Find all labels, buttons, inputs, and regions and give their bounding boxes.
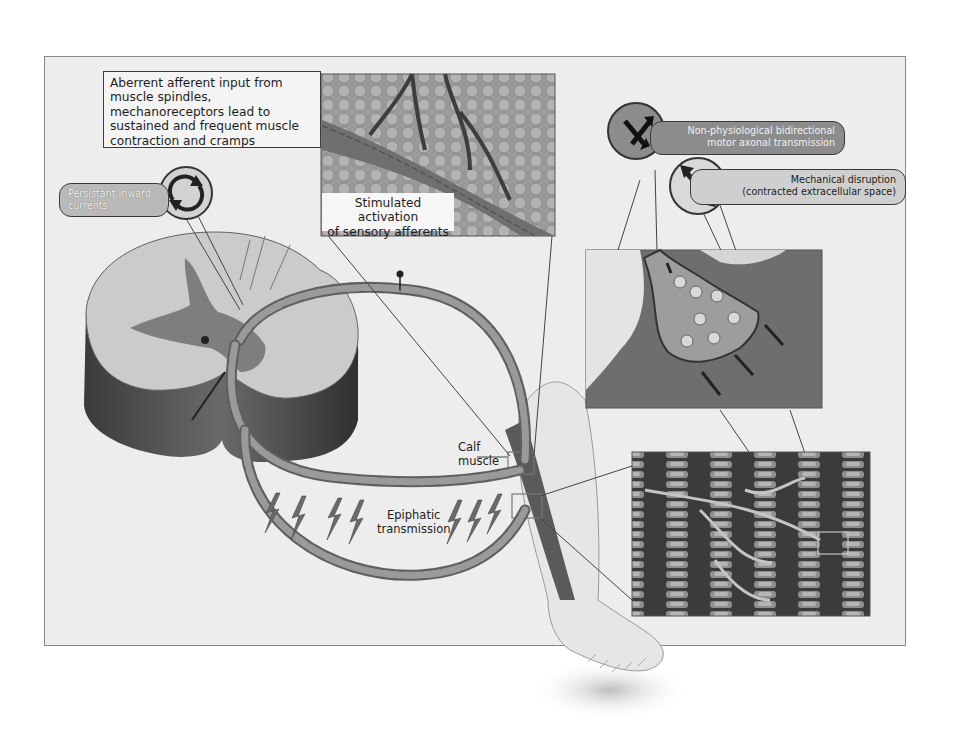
calf-line2: muscle (458, 455, 499, 469)
mechanical-line1: Mechanical disruption (700, 174, 896, 186)
persistent-inward-currents-label: Persistant Inward currents (59, 183, 169, 217)
epiphatic-transmission-label: Epiphatic transmission (377, 509, 450, 537)
mechanical-disruption-label: Mechanical disruption (contracted extrac… (690, 169, 906, 205)
calf-line1: Calf (458, 441, 499, 455)
aberrant-input-label: Aberrent afferent input from muscle spin… (103, 71, 321, 148)
non-physiological-line2: motor axonal transmission (660, 137, 835, 149)
calf-muscle-label: Calf muscle (458, 441, 499, 469)
non-physiological-transmission-label: Non-physiological bidirectional motor ax… (650, 121, 845, 155)
figure-canvas: Aberrent afferent input from muscle spin… (0, 0, 955, 733)
neuromuscular-junction-inset (586, 250, 822, 408)
spinal-cord-cross-section (84, 232, 358, 462)
muscle-fibre-inset (632, 452, 870, 616)
non-physiological-line1: Non-physiological bidirectional (660, 125, 835, 137)
mechanical-line2: (contracted extracellular space) (700, 186, 896, 198)
stimulated-activation-label: Stimulated activation of sensory afferen… (322, 193, 454, 231)
stimulated-activation-line2: of sensory afferents (324, 225, 452, 239)
epiphatic-line1: Epiphatic (377, 509, 450, 523)
stimulated-activation-line1: Stimulated activation (324, 196, 452, 225)
epiphatic-line2: transmission (377, 523, 450, 537)
